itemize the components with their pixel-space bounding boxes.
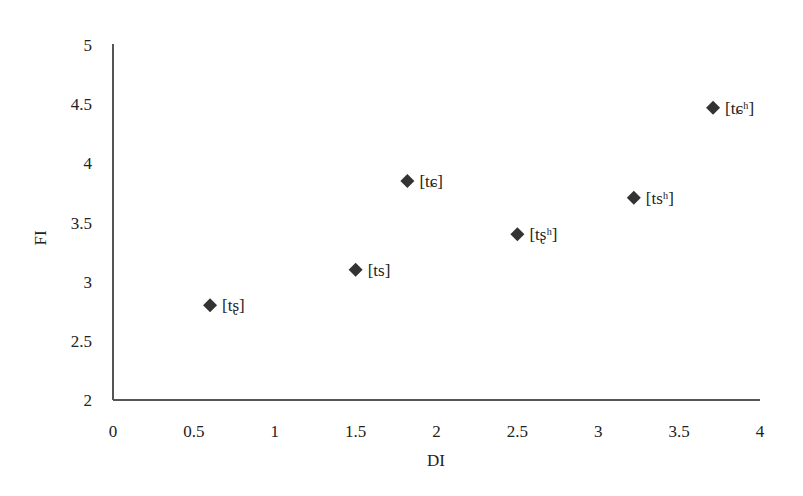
x-tick-label: 1 [271,422,280,441]
y-tick-label: 4 [84,154,93,173]
data-point: [tʂʰ] [510,225,557,244]
x-axis-title: DI [427,451,445,470]
y-tick-label: 3 [84,273,93,292]
y-axis-title: FI [31,230,50,245]
y-tick-label: 2 [84,391,93,410]
x-tick-labels: 00.511.522.533.54 [109,422,765,441]
x-tick-label: 0.5 [183,422,204,441]
x-tick-label: 3.5 [669,422,690,441]
data-point: [tɕ] [400,172,443,191]
point-label: [tsʰ] [646,189,674,208]
point-label: [tʂʰ] [529,225,557,244]
diamond-marker-icon [400,174,414,188]
y-tick-label: 4.5 [71,95,92,114]
y-tick-label: 2.5 [71,332,92,351]
point-label: [tʂ] [222,296,245,315]
data-point: [tsʰ] [627,189,674,208]
x-tick-label: 3 [594,422,603,441]
data-point: [tɕʰ] [706,99,754,118]
y-tick-label: 3.5 [71,214,92,233]
data-point: [tʂ] [203,296,245,315]
axes [113,44,760,400]
diamond-marker-icon [627,191,641,205]
point-label: [tɕʰ] [725,99,754,118]
x-tick-label: 0 [109,422,118,441]
diamond-marker-icon [706,101,720,115]
data-points: [tʂ][ts][tɕ][tʂʰ][tsʰ][tɕʰ] [203,99,754,316]
x-tick-label: 1.5 [345,422,366,441]
data-point: [ts] [349,261,391,280]
y-tick-label: 5 [84,36,93,55]
point-label: [ts] [368,261,391,280]
diamond-marker-icon [349,263,363,277]
y-tick-labels: 22.533.544.55 [71,36,93,410]
x-tick-label: 2 [432,422,441,441]
point-label: [tɕ] [419,172,443,191]
diamond-marker-icon [510,227,524,241]
x-tick-label: 4 [756,422,765,441]
diamond-marker-icon [203,298,217,312]
scatter-chart: 00.511.522.533.54 22.533.544.55 DI FI [t… [0,0,803,496]
x-tick-label: 2.5 [507,422,528,441]
